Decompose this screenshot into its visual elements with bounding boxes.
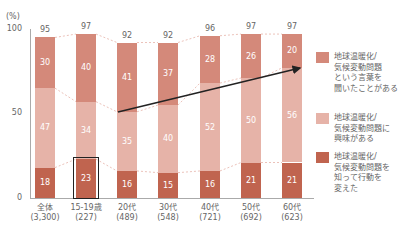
legend-item: 地球温暖化/気候変動問題に興味がある bbox=[316, 113, 404, 145]
legend-swatch bbox=[316, 52, 329, 63]
legend-label: 地球温暖化/気候変動問題という言葉を聞いたことがある bbox=[334, 52, 404, 94]
legend-label: 地球温暖化/気候変動問題に興味がある bbox=[334, 113, 404, 145]
legend-item: 地球温暖化/気候変動問題という言葉を聞いたことがある bbox=[316, 52, 404, 94]
legend-label: 地球温暖化/気候変動問題を知って行動を変えた bbox=[334, 152, 404, 194]
legend-swatch bbox=[316, 152, 329, 163]
legend-swatch bbox=[316, 113, 329, 124]
legend-item: 地球温暖化/気候変動問題を知って行動を変えた bbox=[316, 152, 404, 194]
